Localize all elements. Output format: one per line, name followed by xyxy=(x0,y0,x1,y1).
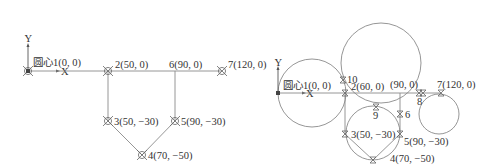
point-4-label: 4(70, −50) xyxy=(390,153,435,165)
point-8-label: 8 xyxy=(417,96,422,107)
y-axis-label: Y xyxy=(25,33,33,44)
point-3-marker xyxy=(103,116,113,126)
right-panel: Y X 圆心1(0, 0) 10 2(60, 0) (90, 0) 7(120,… xyxy=(275,23,476,165)
point-4-label: 4(70, −50) xyxy=(148,150,193,162)
point-5-label: 5(90, −30) xyxy=(181,116,226,128)
point-90-label: (90, 0) xyxy=(390,79,418,91)
point-6-label: 6 xyxy=(405,109,410,120)
point-9-label: 9 xyxy=(373,110,378,121)
point-1-label: 圆心1(0, 0) xyxy=(283,80,331,92)
point-6-label: 6(90, 0) xyxy=(169,59,203,71)
point-5-marker xyxy=(170,116,180,126)
point-4-marker xyxy=(137,150,147,160)
point-5-label: 5(90, −30) xyxy=(404,136,449,148)
point-2-marker xyxy=(103,66,113,76)
left-panel: Y X 圆心1(0, 0) 2(50, 0) 6(90, 0) 7(120, 0… xyxy=(23,33,267,162)
origin-marker xyxy=(23,66,33,76)
point-7-label: 7(120, 0) xyxy=(228,59,267,71)
point-2-label: 2(50, 0) xyxy=(115,59,149,71)
point-2-label: 2(60, 0) xyxy=(351,81,385,93)
point-3-label: 3(50, −30) xyxy=(351,129,396,141)
origin-marker xyxy=(276,91,280,95)
point-7-label: 7(120, 0) xyxy=(437,79,476,91)
diagram-canvas: Y X 圆心1(0, 0) 2(50, 0) 6(90, 0) 7(120, 0… xyxy=(0,0,489,165)
point-7-marker xyxy=(217,66,227,76)
point-3-label: 3(50, −30) xyxy=(114,116,159,128)
y-axis-label: Y xyxy=(275,57,283,68)
point-1-label: 圆心1(0, 0) xyxy=(33,57,81,69)
right-circle xyxy=(419,94,459,134)
